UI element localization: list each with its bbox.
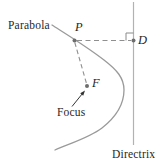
focus-label: Focus xyxy=(57,107,85,119)
point-d-label: D xyxy=(138,34,147,47)
point-d-dot xyxy=(132,39,136,43)
directrix-label: Directrix xyxy=(112,149,155,161)
point-p-dot xyxy=(73,39,77,43)
parabola-label: Parabola xyxy=(8,20,50,32)
dashed-line-p-to-f xyxy=(75,43,87,84)
point-f-label: F xyxy=(92,77,100,90)
point-p-label: P xyxy=(75,21,83,34)
parabola-diagram: Parabola P D F Focus Directrix xyxy=(0,0,164,166)
point-f-dot xyxy=(85,84,89,88)
focus-arrow-line xyxy=(72,94,83,107)
